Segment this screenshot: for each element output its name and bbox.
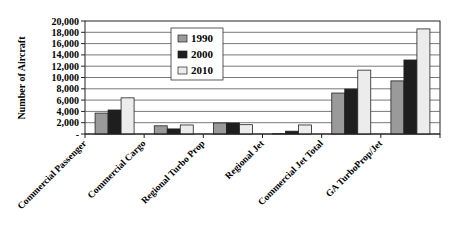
bar-1990 [95,113,108,134]
legend-swatch-2010 [178,67,187,74]
legend-swatch-2000 [178,51,187,58]
bar-chart: -2,0004,0006,0008,00010,00012,00014,0001… [0,0,459,227]
y-axis: -2,0004,0006,0008,00010,00012,00014,0001… [52,16,86,140]
x-tick-label: Commercial Passenger [16,138,89,211]
bar-2000 [404,60,417,134]
bar-1990 [332,93,345,134]
y-tick-label: 6,000 [57,95,80,106]
legend-swatch-1990 [178,35,187,42]
bar-2010 [121,98,134,134]
bar-2000 [345,89,358,134]
legend: 199020002010 [171,28,223,80]
bar-2010 [417,29,430,134]
bar-2000 [167,129,180,134]
y-tick-label: 20,000 [52,16,80,27]
bar-1990 [391,81,404,134]
bar-2000 [226,123,239,134]
bar-1990 [154,126,167,134]
y-tick-label: 2,000 [57,117,80,128]
x-tick-label: Commercial Cargo [86,138,148,200]
bar-2010 [239,125,252,134]
x-tick-label: Regional Jet [223,138,266,181]
x-tick-label: Commercial Jet Total [256,138,325,207]
legend-label-2000: 2000 [191,48,214,60]
y-tick-label: 4,000 [57,106,80,117]
legend-label-2010: 2010 [191,64,214,76]
bar-2000 [108,110,121,134]
y-tick-label: 16,000 [52,38,80,49]
legend-label-1990: 1990 [191,32,214,44]
bar-2010 [180,125,193,134]
y-tick-label: 14,000 [52,49,80,60]
bar-1990 [213,123,226,134]
y-tick-label: 12,000 [52,61,80,72]
bar-2010 [299,125,312,134]
y-axis-label: Number of Aircraft [16,36,27,120]
y-tick-label: - [76,129,79,140]
x-axis: Commercial PassengerCommercial CargoRegi… [16,134,440,211]
x-tick-label: Regional Turbo Prop [139,138,206,205]
y-tick-label: 18,000 [52,27,80,38]
bar-2010 [358,70,371,134]
gridlines [85,21,440,134]
y-tick-label: 8,000 [57,83,80,94]
y-tick-label: 10,000 [52,72,80,83]
x-tick-label: GA TurboProp/Jet [324,138,385,199]
